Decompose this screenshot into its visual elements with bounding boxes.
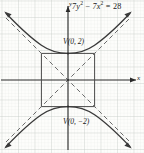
equation-equals: = [106, 2, 111, 11]
equation-rhs: 28 [113, 2, 122, 11]
equation-minus: − [85, 2, 90, 11]
origin-marker [67, 79, 69, 81]
arrowhead-lower-left [4, 142, 11, 148]
arrowhead-upper-left [4, 12, 11, 18]
y-axis-label: y [69, 1, 72, 8]
equation-exp-x: 2 [101, 0, 104, 6]
vertex-bottom-label: V(0, −2) [63, 118, 89, 126]
vertex-bottom-marker [67, 106, 69, 108]
vertex-top-label: V(0, 2) [63, 38, 84, 46]
equation-label: 7y2 − 7x2 = 28 [72, 1, 122, 11]
x-axis-arrowhead [130, 78, 136, 83]
arrowhead-lower-right [124, 142, 131, 148]
arrowhead-upper-right [124, 12, 131, 18]
hyperbola-graph-figure: 7y2 − 7x2 = 28 V(0, 2) V(0, −2) x y [0, 0, 144, 153]
equation-exp-y: 2 [80, 0, 83, 6]
x-axis-label: x [137, 75, 140, 82]
hyperbola-plot [0, 0, 144, 153]
vertex-top-marker [67, 52, 69, 54]
